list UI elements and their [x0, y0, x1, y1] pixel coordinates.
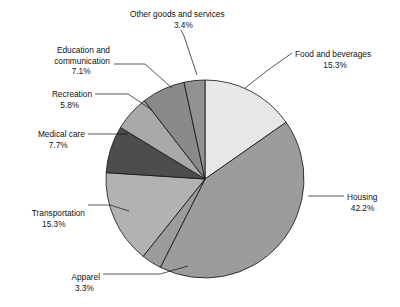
slice-value-transportation: 15.3% [42, 219, 66, 229]
slice-label-education-and-communication: Education andcommunication7.1% [54, 45, 110, 76]
slice-value-apparel: 3.3% [75, 283, 95, 293]
slice-value-other-goods-and-services: 3.4% [174, 20, 194, 30]
slice-value-housing: 42.2% [351, 203, 375, 213]
slice-name-food-and-beverages: Food and beverages [295, 49, 371, 59]
slice-name-housing: Housing [347, 192, 378, 202]
slice-name-apparel: Apparel [71, 272, 100, 282]
slice-value-food-and-beverages: 15.3% [323, 60, 347, 70]
slice-label-other-goods-and-services: Other goods and services3.4% [130, 9, 225, 30]
slice-name-education-and-communication: communication [54, 56, 110, 66]
slice-label-medical-care: Medical care7.7% [38, 129, 85, 150]
slice-name-education-and-communication: Education and [57, 45, 110, 55]
leader-line-education-and-communication [114, 64, 172, 88]
pie-chart-figure: Food and beverages15.3%Housing42.2%Appar… [0, 0, 400, 307]
slice-name-recreation: Recreation [52, 89, 93, 99]
slice-name-medical-care: Medical care [38, 129, 85, 139]
slice-label-housing: Housing42.2% [347, 192, 378, 213]
slice-value-recreation: 5.8% [60, 100, 80, 110]
pie-slices-group [106, 80, 304, 278]
slice-label-transportation: Transportation15.3% [32, 208, 86, 229]
slice-name-transportation: Transportation [32, 208, 86, 218]
leader-line-other-goods-and-services [181, 30, 197, 75]
slice-value-medical-care: 7.7% [49, 140, 69, 150]
leader-line-food-and-beverages [245, 53, 292, 88]
slice-label-recreation: Recreation5.8% [52, 89, 93, 110]
slice-label-apparel: Apparel3.3% [71, 272, 100, 293]
slice-value-education-and-communication: 7.1% [72, 66, 92, 76]
slice-name-other-goods-and-services: Other goods and services [130, 9, 225, 19]
pie-chart-svg: Food and beverages15.3%Housing42.2%Appar… [0, 0, 400, 307]
slice-label-food-and-beverages: Food and beverages15.3% [295, 49, 371, 70]
